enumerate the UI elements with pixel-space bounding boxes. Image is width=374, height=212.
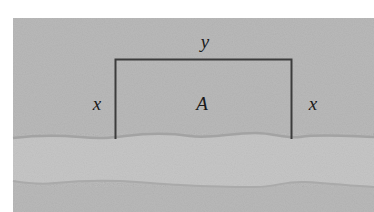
label-top-side: y	[201, 32, 209, 51]
label-right-side: x	[309, 94, 317, 113]
river-band	[13, 133, 374, 187]
label-left-side: x	[93, 94, 101, 113]
diagram: y x A x	[0, 0, 374, 212]
diagram-graphic	[0, 0, 374, 212]
label-area: A	[196, 94, 208, 113]
